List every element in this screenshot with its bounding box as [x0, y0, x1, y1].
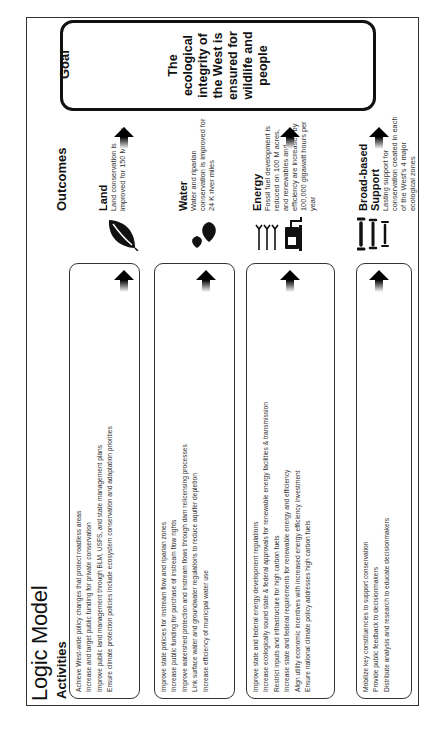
activity-item: Distribute analysis and research to educ…: [382, 270, 392, 692]
arrow-right-icon: [279, 270, 301, 292]
activities-box-water: Improve state policies for instream flow…: [154, 263, 235, 699]
logic-model-diagram: Logic Model Activities Outcomes Goal Ach…: [26, 17, 419, 706]
arrow-right-icon: [368, 127, 390, 149]
activity-item: Increase efficiency of municipal water u…: [201, 270, 211, 692]
arrow-right-icon: [195, 270, 217, 292]
wind-turbine-fuel-pump-icon: [255, 213, 311, 253]
activities-box-land: Achieve West-wide policy changes that pr…: [69, 263, 140, 699]
pillars-icon: [357, 215, 395, 253]
activity-item: Restrict inputs and infrastructure for h…: [272, 270, 282, 692]
activity-item: Achieve West-wide policy changes that pr…: [74, 270, 84, 692]
outcome-title: Water: [177, 116, 189, 211]
activity-item: Mobilize key constituencies to support c…: [361, 270, 371, 692]
outcome-text: Water and riparian conservation is impro…: [189, 116, 216, 211]
outcome-title: Land: [97, 116, 109, 211]
activity-item: Improve state and federal energy develop…: [251, 270, 261, 692]
activities-header: Activities: [54, 641, 69, 699]
activity-item: Ensure climate protection policies inclu…: [105, 270, 115, 692]
water-drops-icon: [187, 218, 219, 250]
outcome-water: Water Water and riparian conservation is…: [177, 116, 216, 211]
activity-item: Align utility economic incentives with i…: [293, 270, 303, 692]
arrow-right-icon: [113, 270, 135, 292]
arrow-right-icon: [368, 270, 390, 292]
activities-box-energy: Improve state and federal energy develop…: [246, 263, 335, 699]
activity-item: Improve watershed protection and instrea…: [180, 270, 190, 692]
activity-item: Increase and target public funding for p…: [84, 270, 94, 692]
activity-item: Increase state and federal requirements …: [282, 270, 292, 692]
activity-item: Improve state policies for instream flow…: [159, 270, 169, 692]
activity-item: Provide public feedback to decisionmaker…: [371, 270, 381, 692]
activity-item: Ensure national climate policy addresses…: [303, 270, 313, 692]
activities-box-support: Mobilize key constituencies to support c…: [356, 263, 412, 699]
arrow-right-icon: [279, 127, 301, 149]
arrow-right-icon: [113, 127, 135, 149]
activity-item: Increase public funding for purchase of …: [169, 270, 179, 692]
outcome-title: Energy: [251, 116, 263, 211]
goal-text: The ecological integrity of the West is …: [166, 26, 271, 106]
goal-box: The ecological integrity of the West is …: [60, 20, 376, 111]
activity-item: Increase ecologically sound state & fede…: [261, 270, 271, 692]
activity-item: Improve public land management through B…: [95, 270, 105, 692]
diagram-title: Logic Model: [27, 586, 53, 701]
activity-item: Link surface water and groundwater regul…: [190, 270, 200, 692]
outcomes-header: Outcomes: [54, 147, 69, 211]
leaf-icon: [105, 217, 139, 251]
